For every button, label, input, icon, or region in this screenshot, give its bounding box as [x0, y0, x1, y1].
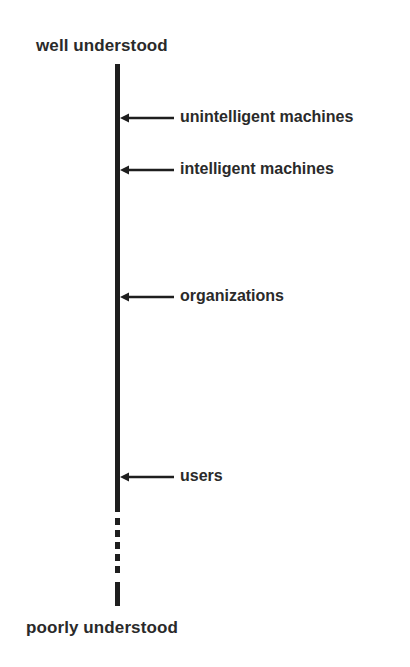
- marker-label: intelligent machines: [180, 160, 334, 178]
- axis-dash: [115, 542, 120, 549]
- left-arrow-icon: [120, 472, 174, 482]
- axis-dash: [115, 566, 120, 573]
- axis-dash: [115, 518, 120, 525]
- bottom-label: poorly understood: [26, 618, 178, 638]
- left-arrow-icon: [120, 292, 174, 302]
- top-label: well understood: [36, 36, 168, 56]
- axis-dash: [115, 530, 120, 537]
- axis-dash: [115, 582, 120, 606]
- marker-label: users: [180, 467, 223, 485]
- marker-label: unintelligent machines: [180, 108, 353, 126]
- axis-dash: [115, 554, 120, 561]
- left-arrow-icon: [120, 113, 174, 123]
- marker-label: organizations: [180, 287, 284, 305]
- left-arrow-icon: [120, 165, 174, 175]
- scale-axis-solid: [115, 64, 120, 512]
